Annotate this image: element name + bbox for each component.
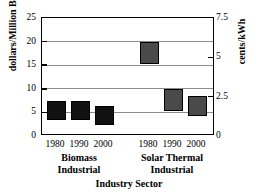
y-tick-label-right: 7.5 [216,12,240,22]
y-tick-mark-right [208,57,213,59]
group-label-line1: Biomass [58,152,101,164]
group-label: BiomassIndustrial [58,152,101,175]
y-tick-label-right: 5 [216,51,240,61]
x-tick-label: 1990 [163,139,182,149]
y-tick-label-right: 0 [216,130,240,140]
bar [71,101,90,120]
y-tick-label-left: 15 [16,59,36,69]
y-axis-right-ticks: 7.552.50 [216,0,258,193]
x-tick-label: 1980 [46,139,65,149]
y-tick-label-right: 2.5 [216,91,240,101]
x-tick-label: 2000 [187,139,206,149]
gridline [42,41,213,42]
gridline [42,65,213,66]
plot-area [41,17,214,135]
y-tick-label-left: 5 [16,106,36,116]
group-label-line2: Industrial [141,164,203,176]
group-label-line2: Industrial [58,164,101,176]
bar [47,101,66,120]
y-tick-label-left: 0 [16,130,36,140]
x-tick-label: 2000 [94,139,113,149]
gridline [42,88,213,89]
y-tick-mark-left [42,41,47,43]
bar [95,106,114,124]
bar [188,96,207,116]
y-tick-mark-left [42,88,47,90]
x-tick-label: 1990 [70,139,89,149]
y-tick-label-left: 25 [16,12,36,22]
y-tick-label-left: 10 [16,83,36,93]
y-tick-label-left: 20 [16,36,36,46]
group-label: Solar ThermalIndustrial [141,152,203,175]
y-axis-left-ticks: 2520151050 [0,0,36,193]
y-tick-mark-left [42,64,47,66]
x-tick-label: 1980 [139,139,158,149]
group-label-line1: Solar Thermal [141,152,203,164]
y-tick-mark-right [208,96,213,98]
bar [164,89,183,111]
bar [140,42,159,65]
bar-chart: dollars/Million Btu cents/kWh Industry S… [0,0,258,193]
